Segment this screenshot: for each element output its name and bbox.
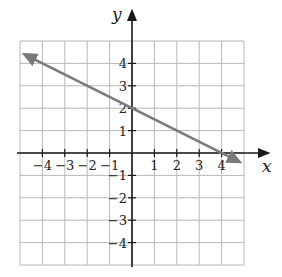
x-tick-label: 3	[195, 158, 203, 173]
y-axis-label: y	[111, 4, 122, 24]
y-tick-label: −2	[108, 191, 127, 206]
y-tick-label: −3	[108, 213, 127, 228]
x-tick-label: −4	[33, 158, 52, 173]
x-tick-label: −2	[78, 158, 97, 173]
y-tick-label: 1	[119, 124, 127, 139]
x-tick-label: 4	[217, 158, 225, 173]
labels: x y	[111, 4, 272, 176]
axes	[17, 11, 268, 267]
y-tick-label: 4	[119, 56, 127, 71]
x-tick-label: 1	[150, 158, 158, 173]
x-tick-label: 2	[173, 158, 181, 173]
coordinate-plane: −4−3−2−112344321−1−2−3−4 x y	[0, 0, 282, 277]
y-tick-label: −4	[108, 236, 127, 251]
x-tick-label: −3	[55, 158, 74, 173]
y-tick-label: 3	[119, 79, 127, 94]
y-tick-label: −1	[108, 168, 127, 183]
x-axis-label: x	[262, 156, 272, 176]
